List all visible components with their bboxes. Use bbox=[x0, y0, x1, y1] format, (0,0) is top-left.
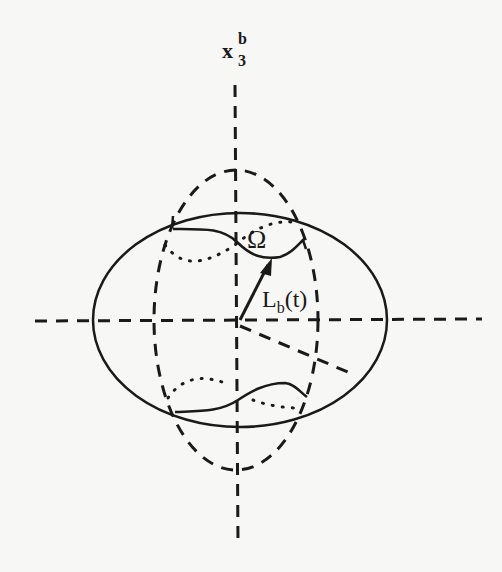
horizontal-axis bbox=[35, 319, 482, 321]
axis-label-x3b: x b 3 bbox=[222, 38, 233, 64]
axis-label-base: x bbox=[222, 38, 233, 63]
diagonal-axis bbox=[240, 326, 350, 373]
vector-label-base: L bbox=[262, 286, 277, 312]
top-hidden-arc bbox=[165, 222, 292, 261]
axis-label-subscript: 3 bbox=[238, 52, 246, 70]
ellipsoid-diagram bbox=[0, 0, 502, 572]
vector-label-lb: Lb(t) bbox=[262, 286, 307, 313]
vertical-axis bbox=[235, 85, 238, 545]
arrow-head-icon bbox=[260, 258, 272, 276]
top-region-boundary bbox=[172, 216, 306, 258]
vector-label-argument: (t) bbox=[285, 286, 308, 312]
region-label-omega: Ω bbox=[247, 225, 266, 255]
bottom-region-boundary bbox=[175, 383, 307, 412]
axis-label-superscript: b bbox=[238, 30, 247, 48]
vector-label-subscript: b bbox=[277, 299, 285, 316]
